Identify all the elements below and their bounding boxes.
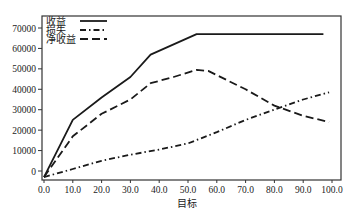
plot-border: [42, 16, 341, 180]
x-tick-label: 100.0: [321, 185, 343, 195]
line-chart: 010000200003000040000500006000070000 0.0…: [0, 0, 357, 219]
series-line-0: [44, 34, 323, 177]
x-tick-label: 60.0: [208, 185, 225, 195]
series-line-2: [44, 70, 329, 177]
y-tick-label: 70000: [12, 24, 36, 34]
series-layer: [44, 34, 329, 177]
x-tick-label: 80.0: [266, 185, 283, 195]
legend: 收益损失净收益: [46, 15, 107, 45]
series-line-1: [44, 92, 329, 177]
x-axis-title: 目标: [177, 198, 197, 209]
x-axis-ticks: 0.010.020.030.040.050.060.070.080.090.01…: [38, 180, 343, 195]
x-tick-label: 20.0: [93, 185, 110, 195]
x-tick-label: 90.0: [295, 185, 312, 195]
y-tick-label: 20000: [12, 126, 36, 136]
y-tick-label: 50000: [12, 64, 36, 74]
x-tick-label: 40.0: [151, 185, 168, 195]
y-tick-label: 10000: [12, 146, 36, 156]
y-tick-label: 0: [31, 167, 36, 177]
y-tick-label: 40000: [12, 85, 36, 95]
y-tick-label: 60000: [12, 44, 36, 54]
x-tick-label: 10.0: [64, 185, 81, 195]
x-tick-label: 30.0: [122, 185, 139, 195]
x-tick-label: 70.0: [237, 185, 254, 195]
y-tick-label: 30000: [12, 105, 36, 115]
y-axis-ticks: 010000200003000040000500006000070000: [12, 24, 42, 177]
x-tick-label: 50.0: [180, 185, 197, 195]
x-tick-label: 0.0: [38, 185, 50, 195]
legend-label: 净收益: [46, 33, 76, 45]
plot-frame: [42, 16, 341, 180]
